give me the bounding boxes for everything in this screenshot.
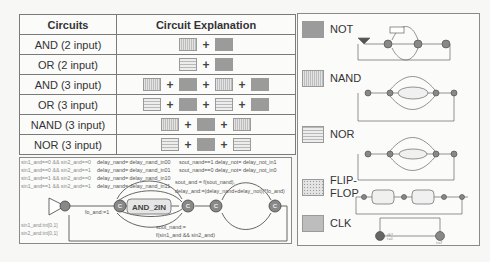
legend-label: CLK (330, 217, 351, 230)
fo-and-label: fo_and:=1 (85, 209, 109, 215)
nor-swatch-icon (233, 138, 251, 151)
update-nand-00: delay_nand= delay_nand_in00 (97, 159, 171, 165)
nor-swatch-icon (161, 138, 179, 151)
circuit-table: Circuits Circuit Explanation AND (2 inpu… (19, 14, 296, 155)
circuit-explanation: ++ (117, 135, 296, 155)
circuit-explanation: +++ (117, 75, 296, 95)
sout-and-update: sout_and = f(sout_nand), (175, 179, 236, 185)
update-nand-01: delay_nand= delay_nand_in01 (97, 167, 171, 173)
circuit-name: NAND (3 input) (20, 115, 117, 135)
circuit-explanation: + (117, 55, 296, 75)
legend-item-not: NOT (302, 21, 353, 38)
plus-sign: + (202, 58, 210, 72)
select-sin1: sin1_and:int[0,1] (21, 222, 58, 228)
committed-c2: C (186, 203, 191, 209)
circuit-name: AND (2 input) (20, 35, 117, 55)
component-automata: clk? t:=0 t>=T (350, 14, 478, 244)
plus-sign: + (238, 98, 246, 112)
nor-swatch-icon (179, 58, 197, 71)
plus-sign: + (184, 118, 192, 132)
guard-not-0: sout_nand==0 delay_not= delay_not_in0 (179, 167, 277, 173)
not-swatch-icon (215, 58, 233, 71)
nor-swatch-icon (215, 98, 233, 111)
circuit-explanation: +++ (117, 95, 296, 115)
table-row: NOR (3 input)++ (20, 135, 296, 155)
dots-swatch-icon (302, 179, 324, 196)
legend-item-clk: CLK (302, 215, 351, 232)
and-swatch-icon (179, 38, 197, 51)
circuit-explanation: ++ (117, 115, 296, 135)
guard-01: sin1_and==0 && sin2_and==1 (21, 167, 91, 173)
not-swatch-icon (197, 138, 215, 151)
not-swatch-icon (251, 78, 269, 91)
nand-swatch-icon (161, 118, 179, 131)
clk-state-1 (376, 232, 385, 241)
clk-guard-label: t>=T (436, 241, 443, 244)
plus-sign: + (220, 138, 228, 152)
table-row: OR (3 input)+++ (20, 95, 296, 115)
nand-swatch-icon (233, 118, 251, 131)
committed-c4: C (273, 203, 278, 209)
table-row: NAND (3 input)++ (20, 115, 296, 135)
not-swatch-icon (251, 98, 269, 111)
circuit-name: OR (3 input) (20, 95, 117, 115)
circuit-name: OR (2 input) (20, 55, 117, 75)
not-swatch-icon (197, 118, 215, 131)
select-sin2: sin2_and:int[0,1] (21, 230, 58, 236)
header-circuits: Circuits (20, 15, 117, 35)
nand-swatch-icon (143, 78, 161, 91)
solid-gray-swatch-icon (302, 21, 324, 38)
guard-not-1: sout_nand==1 delay_not= delay_not_in1 (179, 159, 277, 165)
guard-10: sin1_and==1 && sin2_and==0 (21, 175, 91, 181)
plus-sign: + (202, 38, 210, 52)
not-swatch-icon (215, 38, 233, 51)
circuit-name: NOR (3 input) (20, 135, 117, 155)
update-nand-10: delay_nand= delay_nand_in10 (97, 175, 171, 181)
horizontal-stripes-swatch-icon (302, 126, 324, 143)
guard-11: sin1_and==1 && sin2_and==1 (21, 183, 91, 189)
clk-state-2 (436, 232, 445, 241)
clk-reset-label: t:=0 (387, 237, 393, 241)
and-2in-label: AND_2IN (132, 203, 166, 212)
guard-00: sin1_and==0 && sin2_and==0 (21, 159, 91, 165)
committed-c1: C (118, 203, 123, 209)
circuit-explanation: + (117, 35, 296, 55)
nor-swatch-icon (143, 98, 161, 111)
state-init (60, 201, 70, 211)
plus-sign: + (166, 98, 174, 112)
circuit-name: AND (3 input) (20, 75, 117, 95)
plus-sign: + (202, 98, 210, 112)
dense-dots-swatch-icon (302, 215, 324, 232)
not-swatch-icon (179, 98, 197, 111)
sout-nand-expr: f(sin1_and && sin2_and) (156, 232, 215, 238)
legend-item-nor: NOR (302, 126, 354, 143)
vertical-stripes-swatch-icon (302, 70, 324, 87)
plus-sign: + (220, 118, 228, 132)
table-row: OR (2 input)+ (20, 55, 296, 75)
table-row: AND (3 input)+++ (20, 75, 296, 95)
header-explanation: Circuit Explanation (117, 15, 296, 35)
sout-nand-label: sout_nand:= (156, 224, 186, 230)
plus-sign: + (184, 138, 192, 152)
and-automaton-diagram: sin1_and==0 && sin2_and==0 sin1_and==0 &… (19, 157, 292, 244)
committed-c3: C (214, 203, 219, 209)
plus-sign: + (202, 78, 210, 92)
not-swatch-icon (179, 78, 197, 91)
plus-sign: + (166, 78, 174, 92)
table-row: AND (2 input)+ (20, 35, 296, 55)
plus-sign: + (238, 78, 246, 92)
nand-swatch-icon (215, 78, 233, 91)
